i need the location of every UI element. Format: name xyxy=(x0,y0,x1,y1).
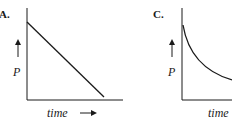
graph-diagrams: A. P time C. P time xyxy=(0,0,232,120)
panel-c: C. P time xyxy=(153,8,232,120)
panel-c-decay-curve xyxy=(183,25,232,80)
panel-a-label: A. xyxy=(0,8,10,20)
panel-a-linear-curve xyxy=(27,22,104,97)
panel-a-x-label: time xyxy=(47,106,68,120)
panel-a: A. P time xyxy=(0,8,123,120)
panel-a-y-label: P xyxy=(12,65,21,79)
panel-c-label: C. xyxy=(153,8,164,20)
panel-c-y-label: P xyxy=(167,65,176,79)
panel-c-x-label: time xyxy=(208,106,229,120)
